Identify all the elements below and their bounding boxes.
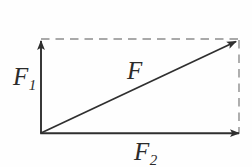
vector-label-f2-base: F xyxy=(134,138,149,165)
vector-label-f1-base: F xyxy=(13,63,28,90)
vector-label-f2: F2 xyxy=(134,139,157,167)
vector-label-f1-subscript: 1 xyxy=(29,77,37,93)
vector-label-f1: F1 xyxy=(13,64,36,93)
force-diagram-figure: F1 F2 F xyxy=(0,0,252,167)
vector-label-f-base: F xyxy=(127,57,142,84)
vector-label-f: F xyxy=(127,58,142,83)
vector-diagram-canvas xyxy=(0,0,252,167)
vector-arrow-f-resultant xyxy=(41,42,236,134)
vector-label-f2-subscript: 2 xyxy=(150,152,158,167)
